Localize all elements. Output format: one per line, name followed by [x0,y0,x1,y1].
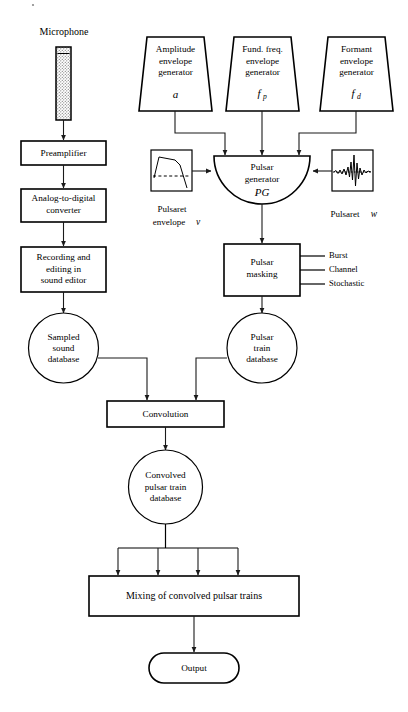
recording-label-line3: sound editor [41,275,87,285]
pulsaret-grain-caption-word: Pulsaret [331,209,360,219]
node-fundamental-frequency-envelope-generator[interactable]: Fund. freq. envelope generator f p [226,37,299,111]
node-formant-envelope-generator[interactable]: Formant envelope generator f d [320,37,393,111]
node-amplitude-envelope-generator[interactable]: Amplitude envelope generator a [139,37,212,111]
fund-gen-label-line1: Fund. freq. [242,44,283,54]
convolution-label: Convolution [143,409,189,419]
formant-gen-label-line1: Formant [341,44,373,54]
recording-label-line2: editing in [46,264,81,274]
amp-gen-label-line3: generator [158,67,193,77]
convolved-db-label-line3: database [150,493,182,503]
pulsar-generator-label-line2: generator [245,174,280,184]
amp-gen-symbol: a [173,88,179,100]
masking-option-stochastic[interactable]: Stochastic [329,278,365,288]
adc-label-line1: Analog-to-digital [32,193,96,203]
node-convolved-pulsar-train-database[interactable]: Convolved pulsar train database [129,450,203,524]
node-sampled-sound-database[interactable]: Sampled sound database [29,313,99,383]
pulsar-train-db-label-line3: database [246,354,278,364]
microphone-icon [56,47,71,120]
pulsaret-grain-panel[interactable] [332,150,373,191]
node-mixing[interactable]: Mixing of convolved pulsar trains [89,576,299,616]
fund-gen-label-line2: envelope [246,56,279,66]
node-convolution[interactable]: Convolution [107,401,224,427]
pulsaret-envelope-caption-word: envelope [153,217,185,227]
pulsar-masking-label-line1: Pulsar [251,257,274,267]
masking-option-channel[interactable]: Channel [329,264,358,274]
convolved-db-label-line1: Convolved [145,470,186,480]
fund-gen-symbol-subscript: p [262,92,267,101]
node-pulsar-masking[interactable]: Pulsar masking [224,244,300,296]
node-output[interactable]: Output [149,653,239,683]
fund-gen-label-line3: generator [245,67,280,77]
pulsar-train-db-label-line2: train [254,343,271,353]
preamplifier-label: Preamplifier [41,148,87,158]
amp-gen-label-line2: envelope [159,56,192,66]
flow-diagram-svg: Microphone Preamplifier Analog-to-digita… [0,0,408,712]
node-recording-editing[interactable]: Recording and editing in sound editor [21,247,106,292]
pulsar-train-db-label-line1: Pulsar [251,332,274,342]
sampled-db-label-line2: sound [53,343,75,353]
formant-gen-symbol-subscript: d [357,92,361,101]
pulsaret-grain-caption: Pulsaret w [331,209,378,219]
formant-gen-label-line3: generator [339,67,374,77]
pulsaret-envelope-panel[interactable] [151,150,192,191]
mixing-label: Mixing of convolved pulsar trains [126,590,262,601]
pulsar-masking-label-line2: masking [246,269,278,279]
microphone-label: Microphone [40,26,89,37]
amp-gen-label-line1: Amplitude [156,44,195,54]
pulsaret-envelope-caption-line1: Pulsaret [158,204,187,214]
masking-option-burst[interactable]: Burst [329,250,348,260]
pulsar-generator-symbol: PG [254,186,270,198]
convolved-db-label-line2: pulsar train [145,482,187,492]
sampled-db-label-line3: database [48,354,80,364]
flow-diagram-canvas: Microphone Preamplifier Analog-to-digita… [0,0,408,712]
adc-label-line2: converter [46,205,81,215]
recording-label-line1: Recording and [37,252,91,262]
pulsaret-grain-symbol: w [371,209,378,219]
node-pulsar-train-database[interactable]: Pulsar train database [227,313,297,383]
sampled-db-label-line1: Sampled [47,332,80,342]
node-preamplifier[interactable]: Preamplifier [21,141,106,165]
pulsar-generator-label-line1: Pulsar [251,162,274,172]
formant-gen-label-line2: envelope [340,56,373,66]
output-label: Output [181,663,207,673]
node-analog-to-digital-converter[interactable]: Analog-to-digital converter [21,189,106,222]
scan-speck [32,4,34,6]
